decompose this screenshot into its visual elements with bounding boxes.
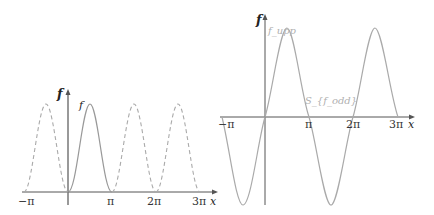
left-dashed-hump-3 [156, 104, 200, 192]
right-curve-label-fupp: f_upp [267, 25, 297, 37]
right-tick-neg-pi: −π [218, 118, 234, 131]
right-tick-pi: π [305, 118, 312, 131]
right-y-arrow-icon [263, 14, 268, 20]
left-curve-label: f [78, 99, 85, 112]
left-x-label: x [210, 195, 217, 208]
left-tick-neg-pi: −π [18, 195, 34, 208]
left-tick-2pi: 2π [147, 195, 161, 208]
left-solid-curve [68, 104, 112, 192]
left-plot: f f −π π 2π 3π x [18, 86, 218, 208]
right-y-label: f [255, 12, 264, 27]
right-tick-2pi: 2π [346, 118, 360, 131]
right-plot: f f_upp S_{f_odd} −π π 2π 3π x [218, 12, 415, 205]
left-y-label: f [56, 86, 65, 101]
right-curve-label-sfodd: S_{f_odd} [305, 95, 357, 107]
left-tick-3pi: 3π [192, 195, 206, 208]
left-x-arrow-icon [212, 190, 218, 195]
left-y-arrow-icon [66, 89, 71, 95]
left-dashed-hump-1 [24, 104, 68, 192]
left-tick-pi: π [107, 195, 114, 208]
right-x-label: x [408, 118, 415, 131]
left-dashed-hump-2 [112, 104, 156, 192]
figure-canvas: f f −π π 2π 3π x f f_upp S_{f_odd} −π π … [0, 0, 434, 215]
right-tick-3pi: 3π [389, 118, 403, 131]
